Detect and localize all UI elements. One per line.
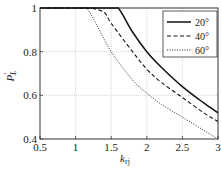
x-tick-label: 1 [73, 141, 79, 153]
x-tick-label: 3 [215, 141, 221, 153]
legend-label: 60° [195, 45, 209, 56]
y-axis-label: P′L [3, 70, 18, 82]
y-tick-label: 1 [32, 2, 38, 14]
legend-label: 40° [195, 31, 209, 42]
x-tick-label: 1.5 [104, 141, 118, 153]
legend-label: 20° [195, 17, 209, 28]
line-chart: 0.511.522.53 0.40.60.81 krj P′L 20°40°60… [0, 0, 221, 175]
x-axis-label: krj [120, 152, 130, 166]
x-tick-label: 2.5 [176, 141, 190, 153]
x-tick-label: 2 [144, 141, 150, 153]
y-tick-label: 0.4 [23, 133, 37, 145]
y-tick-label: 0.8 [23, 46, 37, 58]
y-tick-label: 0.6 [23, 89, 37, 101]
legend: 20°40°60° [163, 11, 217, 57]
